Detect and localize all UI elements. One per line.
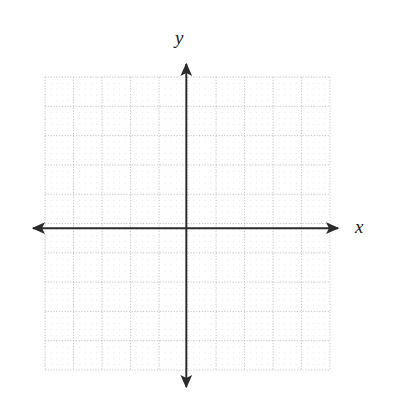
coordinate-plane-svg (0, 0, 398, 398)
y-axis-label: y (175, 28, 183, 47)
x-axis-label: x (355, 217, 363, 236)
coordinate-plane-figure: y x (0, 0, 398, 398)
